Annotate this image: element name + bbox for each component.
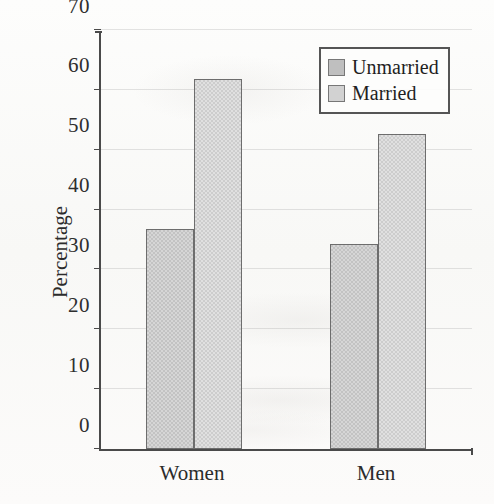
y-axis-tick-label: 60: [68, 53, 90, 78]
y-axis-tick-label: 50: [68, 113, 90, 138]
x-axis-right-cap: [471, 448, 473, 455]
bar-women-married: [194, 79, 242, 449]
y-axis-top-cap: [95, 31, 102, 33]
x-axis-label-men: Men: [357, 461, 396, 486]
bar-women-unmarried: [146, 229, 194, 449]
y-axis-tick: [94, 209, 101, 210]
bar-men-unmarried: [330, 244, 378, 449]
y-axis-title: Percentage: [48, 206, 73, 298]
y-axis-tick-label: 40: [68, 173, 90, 198]
y-axis-tick: [94, 448, 101, 449]
y-axis-tick: [94, 149, 101, 150]
y-axis-tick: [94, 388, 101, 389]
y-axis-tick: [94, 29, 101, 30]
legend-item-married: Married: [328, 80, 439, 106]
gridline: [101, 29, 472, 30]
y-axis-tick: [94, 328, 101, 329]
y-axis-tick: [94, 89, 101, 90]
legend-swatch-unmarried-icon: [328, 59, 345, 76]
y-axis-tick-label: 0: [79, 412, 90, 437]
y-axis-tick-label: 10: [68, 352, 90, 377]
legend-label-unmarried: Unmarried: [352, 57, 439, 77]
bar-chart-figure: 010203040506070 WomenMen Percentage Unma…: [0, 0, 494, 504]
legend-swatch-married-icon: [328, 85, 345, 102]
chart-legend: Unmarried Married: [319, 47, 450, 114]
legend-label-married: Married: [352, 83, 416, 103]
y-axis-tick-label: 70: [68, 0, 90, 18]
x-axis-label-women: Women: [160, 461, 225, 486]
bar-men-married: [378, 134, 426, 449]
y-axis-tick: [94, 268, 101, 269]
legend-item-unmarried: Unmarried: [328, 54, 439, 80]
